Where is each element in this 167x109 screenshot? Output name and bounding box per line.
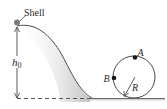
shell-label: Shell bbox=[24, 7, 45, 18]
loop-the-loop-diagram: h0 Shell A B R bbox=[0, 0, 167, 109]
point-b-label: B bbox=[104, 73, 110, 84]
point-a-label: A bbox=[137, 47, 145, 58]
radius-label: R bbox=[131, 82, 138, 93]
point-b-dot bbox=[112, 76, 117, 81]
shell-ball-icon bbox=[14, 20, 20, 26]
ground-shading bbox=[90, 99, 165, 102]
hill-shading bbox=[17, 25, 90, 102]
